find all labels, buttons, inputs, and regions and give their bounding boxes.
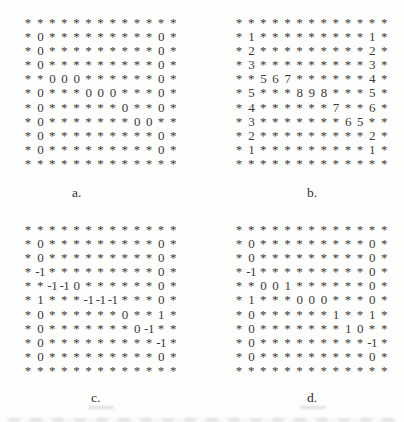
grid-row: *************: [22, 157, 179, 171]
star-cell: *: [306, 364, 318, 378]
star-cell: *: [281, 265, 293, 279]
star-cell: *: [293, 58, 305, 72]
symbol-grid-d: **************0*********0**0*********0**…: [233, 223, 390, 378]
star-cell: *: [330, 322, 342, 336]
star-cell: *: [354, 223, 366, 237]
value-cell: 0: [34, 115, 46, 129]
star-cell: *: [143, 157, 155, 171]
star-cell: *: [95, 251, 107, 265]
grid-row: *0******1**1*: [233, 308, 390, 322]
star-cell: *: [233, 16, 245, 30]
star-cell: *: [155, 322, 167, 336]
value-cell: 8: [318, 86, 330, 100]
star-cell: *: [46, 265, 58, 279]
star-cell: *: [58, 251, 70, 265]
value-cell: 5: [257, 72, 269, 86]
star-cell: *: [378, 251, 390, 265]
star-cell: *: [46, 58, 58, 72]
value-cell: -1: [95, 293, 107, 307]
panel-label-c: c.: [91, 390, 100, 406]
grid-row: *0*********0*: [22, 129, 179, 143]
star-cell: *: [378, 86, 390, 100]
star-cell: *: [293, 237, 305, 251]
star-cell: *: [46, 251, 58, 265]
star-cell: *: [167, 58, 179, 72]
star-cell: *: [342, 44, 354, 58]
star-cell: *: [293, 322, 305, 336]
star-cell: *: [167, 308, 179, 322]
star-cell: *: [257, 237, 269, 251]
star-cell: *: [293, 223, 305, 237]
star-cell: *: [95, 364, 107, 378]
value-cell: 0: [155, 129, 167, 143]
star-cell: *: [281, 86, 293, 100]
star-cell: *: [119, 129, 131, 143]
value-cell: 0: [70, 279, 82, 293]
star-cell: *: [330, 293, 342, 307]
star-cell: *: [293, 364, 305, 378]
star-cell: *: [281, 308, 293, 322]
star-cell: *: [70, 293, 82, 307]
star-cell: *: [82, 251, 94, 265]
value-cell: 0: [70, 72, 82, 86]
star-cell: *: [46, 30, 58, 44]
star-cell: *: [233, 129, 245, 143]
star-cell: *: [378, 265, 390, 279]
star-cell: *: [330, 30, 342, 44]
star-cell: *: [95, 115, 107, 129]
grid-row: *0*********0*: [22, 58, 179, 72]
star-cell: *: [293, 115, 305, 129]
star-cell: *: [46, 223, 58, 237]
star-cell: *: [119, 322, 131, 336]
symbol-grid-b: **************1*********1**2*********2**…: [233, 16, 390, 171]
star-cell: *: [269, 322, 281, 336]
star-cell: *: [107, 223, 119, 237]
star-cell: *: [131, 364, 143, 378]
grid-row: *0*********0*: [22, 143, 179, 157]
star-cell: *: [143, 251, 155, 265]
star-cell: *: [70, 115, 82, 129]
star-cell: *: [269, 16, 281, 30]
star-cell: *: [46, 322, 58, 336]
star-cell: *: [330, 265, 342, 279]
star-cell: *: [354, 237, 366, 251]
star-cell: *: [354, 336, 366, 350]
value-cell: 1: [366, 30, 378, 44]
value-cell: 0: [245, 308, 257, 322]
star-cell: *: [22, 237, 34, 251]
star-cell: *: [330, 223, 342, 237]
value-cell: 0: [366, 293, 378, 307]
star-cell: *: [342, 16, 354, 30]
value-cell: 0: [245, 251, 257, 265]
star-cell: *: [119, 265, 131, 279]
star-cell: *: [95, 322, 107, 336]
star-cell: *: [22, 101, 34, 115]
star-cell: *: [58, 129, 70, 143]
star-cell: *: [354, 364, 366, 378]
value-cell: 1: [366, 308, 378, 322]
star-cell: *: [318, 16, 330, 30]
star-cell: *: [70, 86, 82, 100]
star-cell: *: [131, 279, 143, 293]
value-cell: -1: [245, 265, 257, 279]
star-cell: *: [318, 157, 330, 171]
star-cell: *: [378, 30, 390, 44]
star-cell: *: [70, 237, 82, 251]
star-cell: *: [257, 16, 269, 30]
star-cell: *: [269, 115, 281, 129]
star-cell: *: [318, 279, 330, 293]
star-cell: *: [233, 58, 245, 72]
star-cell: *: [257, 364, 269, 378]
star-cell: *: [95, 58, 107, 72]
value-cell: 5: [245, 86, 257, 100]
star-cell: *: [257, 143, 269, 157]
star-cell: *: [269, 129, 281, 143]
star-cell: *: [233, 72, 245, 86]
star-cell: *: [167, 336, 179, 350]
star-cell: *: [143, 129, 155, 143]
star-cell: *: [22, 44, 34, 58]
value-cell: 0: [155, 237, 167, 251]
star-cell: *: [318, 237, 330, 251]
value-cell: 0: [257, 279, 269, 293]
star-cell: *: [257, 322, 269, 336]
